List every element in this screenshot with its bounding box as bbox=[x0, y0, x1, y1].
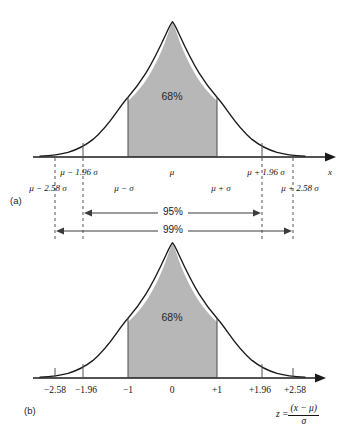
z-tick-label-zero: 0 bbox=[170, 386, 175, 396]
z-tick-label-plus-1.96: +1.96 bbox=[249, 386, 271, 396]
axis-tick-label-mu: μ bbox=[170, 168, 175, 177]
arrow-95-right-head bbox=[253, 210, 261, 217]
axis-tick-label-plus-1-sigma: μ + σ bbox=[211, 184, 231, 193]
x-axis-arrowhead-panel-a bbox=[325, 152, 336, 161]
z-tick-label-minus-1.96: −1.96 bbox=[75, 386, 97, 396]
interval-label-99: 99% bbox=[163, 225, 183, 235]
x-axis-arrowhead-panel-b bbox=[315, 373, 326, 382]
axis-tick-label-plus-2.58-sigma: μ + 2.58 σ bbox=[281, 184, 319, 193]
shaded-area-label-panel-a: 68% bbox=[161, 91, 182, 102]
x-axis-label-panel-a: x bbox=[328, 168, 332, 177]
z-tick-label-minus-1: −1 bbox=[123, 386, 133, 396]
interval-label-95: 95% bbox=[163, 207, 183, 217]
arrow-95-left-head bbox=[84, 210, 92, 217]
axis-tick-label-minus-1-sigma: μ − σ bbox=[114, 184, 134, 193]
z-tick-label-minus-2.58: −2.58 bbox=[44, 386, 66, 396]
axis-tick-label-minus-2.58-sigma: μ − 2.58 σ bbox=[29, 184, 67, 193]
shaded-area-label-panel-b: 68% bbox=[161, 312, 182, 323]
z-tick-label-plus-2.58: +2.58 bbox=[284, 386, 306, 396]
panel-label-b: (b) bbox=[24, 406, 36, 416]
z-formula-lhs: z = bbox=[276, 409, 288, 419]
panel-a bbox=[33, 22, 336, 240]
z-formula-numerator: (x − μ) bbox=[288, 404, 318, 416]
arrow-99-right-head bbox=[284, 228, 292, 235]
z-score-formula: z =(x − μ)σ bbox=[276, 404, 319, 426]
z-tick-label-plus-1: +1 bbox=[212, 386, 222, 396]
z-formula-denominator: σ bbox=[288, 416, 318, 427]
axis-tick-label-plus-1.96-sigma: μ + 1.96 σ bbox=[247, 168, 285, 177]
axis-tick-label-minus-1.96-sigma: μ − 1.96 σ bbox=[60, 168, 98, 177]
panel-label-a: (a) bbox=[10, 196, 22, 206]
z-formula-fraction: (x − μ)σ bbox=[288, 404, 318, 426]
arrow-99-left-head bbox=[56, 228, 64, 235]
